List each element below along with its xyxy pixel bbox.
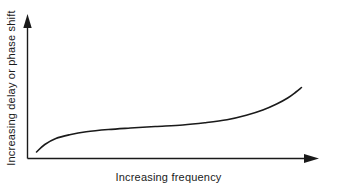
y-axis-label: Increasing delay or phase shift — [2, 0, 20, 184]
figure-container: Increasing frequency Increasing delay or… — [0, 0, 337, 192]
plot-canvas — [0, 0, 337, 192]
up-arrow-icon — [23, 14, 31, 28]
data-curve — [37, 88, 302, 153]
right-arrow-icon — [304, 154, 319, 163]
x-axis-label: Increasing frequency — [0, 172, 337, 183]
